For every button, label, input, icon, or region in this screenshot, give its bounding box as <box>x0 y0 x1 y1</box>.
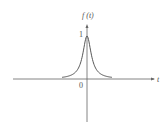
y-axis-label: f (t) <box>82 12 94 20</box>
y-axis-arrow-icon <box>86 24 89 28</box>
origin-label: 0 <box>79 82 83 90</box>
peak-tick-label: 1 <box>79 31 83 39</box>
x-axis-label: t <box>157 76 159 84</box>
x-axis-arrow-icon <box>151 78 155 81</box>
